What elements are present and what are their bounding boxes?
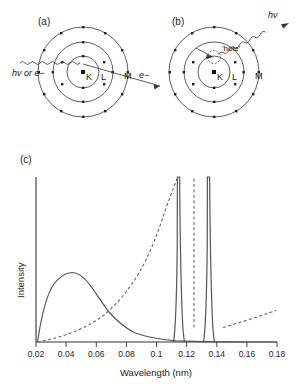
panel-b: (b) [169, 10, 289, 118]
x-tick-label: 0.14 [209, 349, 226, 359]
emitted-photon-arrowhead-b [281, 23, 289, 29]
nucleus-a [81, 70, 85, 74]
absorption-curve-right [223, 310, 276, 327]
panel-a-label: (a) [38, 16, 50, 27]
l-shell-label-a: L [101, 72, 106, 82]
x-tick-label: 0.12 [178, 349, 195, 359]
panel-a: (a) [12, 16, 160, 118]
hole-label-b: 'hole' [222, 44, 241, 53]
x-tick-label: 0.1 [151, 349, 163, 359]
continuum-spectrum-curve [38, 273, 278, 343]
x-tick-label: 0.02 [28, 349, 45, 359]
x-tick-label: 0.04 [58, 349, 75, 359]
x-axis-title: Wavelength (nm) [120, 367, 192, 378]
electron-transition-path-b [196, 48, 213, 57]
m-shell-label-a: M [124, 71, 132, 81]
panel-b-label: (b) [172, 16, 184, 27]
nucleus-b [212, 70, 216, 74]
incident-photon-wave-a [20, 62, 80, 65]
x-tick-label: 0.18 [269, 349, 286, 359]
x-tick-label: 0.08 [118, 349, 135, 359]
absorption-curve-left [38, 179, 178, 342]
k-beta-peak [174, 177, 185, 342]
x-tick-label: 0.06 [88, 349, 105, 359]
l-shell-electrons-b [183, 61, 245, 103]
ejected-electron-label-a: e− [139, 70, 149, 80]
x-axis-tick-labels: 0.02 0.04 0.06 0.08 0.1 0.12 0.14 0.16 0… [28, 349, 286, 359]
x-axis-ticks [36, 342, 277, 347]
y-axis-title: Intensity [15, 262, 26, 298]
figure-container: (a) [0, 0, 299, 392]
panel-c-chart: (c) Intensity [15, 154, 286, 378]
k-shell-electrons-b [213, 87, 215, 89]
panel-c-label: (c) [20, 154, 32, 165]
emitted-photon-label-b: hν [268, 10, 278, 20]
k-shell-label-a: K [86, 72, 92, 82]
k-shell-label-b: K [217, 72, 223, 82]
m-shell-label-b: M [255, 71, 263, 81]
x-tick-label: 0.16 [239, 349, 256, 359]
k-alpha-peak [204, 177, 215, 342]
incident-label-a: hν or e− [12, 68, 45, 78]
figure-svg: (a) [0, 0, 299, 392]
l-shell-label-b: L [232, 72, 237, 82]
